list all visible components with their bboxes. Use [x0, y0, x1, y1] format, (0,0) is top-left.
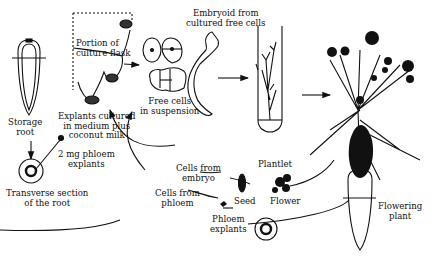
label-transverse-section: Transverse sectionof the root	[6, 189, 88, 208]
label-line: explants	[58, 160, 115, 170]
label-line: of the root	[6, 199, 88, 209]
label-line: embryo	[176, 174, 221, 184]
label-free-cells: Free cellsin suspension	[140, 97, 199, 116]
free-cells-illustration	[143, 38, 186, 91]
label-line: cultured free cells	[186, 19, 266, 29]
label-phloem-explants: Phloemexplants	[210, 215, 247, 234]
storage-root-illustration	[12, 39, 46, 115]
label-line: plant	[378, 212, 422, 222]
label-culture-flask: Portion ofculture flask	[76, 39, 130, 58]
label-cells-from-phloem: Cells fromphloem	[155, 189, 200, 208]
label-line: culture flask	[76, 49, 130, 59]
label-line: phloem	[155, 199, 200, 209]
label-line: in suspension	[140, 107, 199, 117]
label-plantlet: Plantlet	[258, 160, 292, 170]
label-flowering-plant: Floweringplant	[378, 202, 422, 221]
label-line: coconut milk	[58, 131, 135, 141]
label-2mg-phloem: 2 mg phloemexplants	[58, 150, 115, 169]
plantlet-tube-illustration	[256, 26, 282, 132]
label-flower: Flower	[270, 197, 300, 207]
label-seed: Seed	[234, 197, 256, 207]
label-explants-cultured: Explants culturedin medium pluscoconut m…	[58, 112, 135, 141]
culture-flask-illustration	[73, 13, 132, 104]
label-cells-from-embryo: Cells fromembryo	[176, 164, 221, 183]
label-line: explants	[210, 225, 247, 235]
label-line: root	[8, 128, 42, 138]
label-storage-root: Storageroot	[8, 118, 42, 137]
label-embryoid: Embryoid fromcultured free cells	[186, 9, 266, 28]
